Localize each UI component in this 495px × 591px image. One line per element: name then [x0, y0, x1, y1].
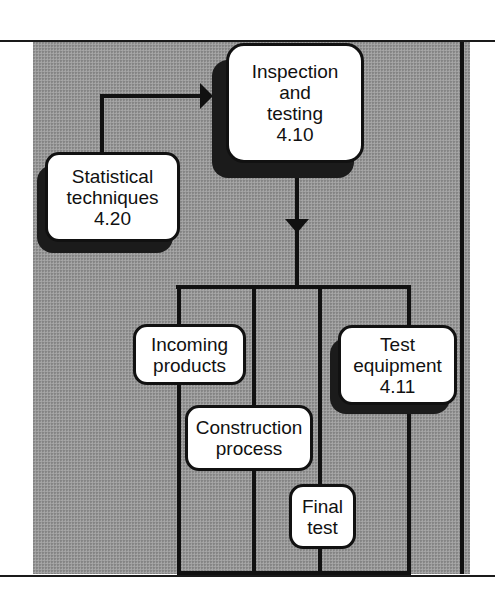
node-label-line: 4.20	[94, 208, 131, 229]
node-label-line: techniques	[67, 187, 159, 208]
node-label-line: Incoming	[151, 334, 228, 355]
node-label-line: Construction	[196, 417, 303, 438]
node-label-line: and	[279, 82, 311, 103]
bottom-rule	[0, 575, 495, 577]
connector-statistical-right	[100, 94, 202, 98]
connector-statistical-up	[100, 95, 104, 155]
node-label-line: equipment	[353, 355, 442, 376]
node-test-equipment: Test equipment 4.11	[338, 325, 457, 405]
arrow-down-icon	[285, 219, 309, 233]
node-label-line: Final	[302, 496, 343, 517]
node-label-line: test	[307, 517, 338, 538]
right-border-line	[460, 42, 464, 574]
node-label-line: products	[153, 355, 226, 376]
node-label-line: Test	[380, 334, 415, 355]
branch-bottom-bar	[178, 571, 411, 575]
branch-bar	[176, 285, 410, 289]
node-statistical-techniques: Statistical techniques 4.20	[45, 152, 180, 242]
node-label-line: testing	[267, 103, 323, 124]
node-inspection-testing: Inspection and testing 4.10	[226, 43, 364, 163]
node-label-line: Inspection	[252, 61, 339, 82]
node-incoming-products: Incoming products	[133, 324, 246, 385]
node-label-line: 4.10	[277, 124, 314, 145]
node-construction-process: Construction process	[185, 405, 313, 471]
node-final-test: Final test	[289, 484, 356, 549]
node-label-line: process	[216, 438, 283, 459]
node-label-line: 4.11	[380, 376, 416, 397]
node-label-line: Statistical	[72, 166, 153, 187]
